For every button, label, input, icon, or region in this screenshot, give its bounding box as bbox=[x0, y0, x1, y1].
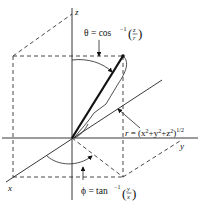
phi-close-paren: ) bbox=[132, 186, 136, 201]
theta-formula: θ = cos −1 ( z r ) bbox=[84, 26, 142, 41]
theta-open-paren: ( bbox=[128, 26, 132, 41]
phi-numerator: y bbox=[126, 185, 130, 192]
theta-formula-lhs: θ = cos bbox=[84, 28, 112, 38]
r-formula: r = (x2+y2+z2)1/2 bbox=[125, 127, 184, 138]
r-vector bbox=[72, 56, 123, 138]
y-axis-label: y bbox=[179, 141, 184, 151]
phi-arc bbox=[47, 156, 92, 164]
theta-formula-exponent: −1 bbox=[120, 26, 126, 32]
spherical-coordinates-diagram: z y x θ = cos −1 ( z r ) r = (x2+y2+z2)1… bbox=[0, 0, 205, 214]
dashed-projection-xy bbox=[72, 138, 123, 177]
phi-formula-exponent: −1 bbox=[114, 184, 120, 190]
x-axis-label: x bbox=[7, 183, 12, 193]
dashed-top-diagonal bbox=[13, 14, 72, 56]
dashed-projection-box bbox=[13, 14, 180, 177]
phi-formula-lhs: ϕ = tan bbox=[81, 186, 108, 196]
phi-denominator: x bbox=[126, 193, 130, 200]
theta-denominator: r bbox=[133, 34, 136, 41]
dashed-projection-y bbox=[123, 141, 180, 177]
z-axis-label: z bbox=[74, 7, 79, 17]
theta-close-paren: ) bbox=[138, 26, 142, 41]
phi-formula: ϕ = tan −1 ( y x ) bbox=[81, 184, 136, 201]
theta-numerator: z bbox=[132, 26, 136, 33]
phi-open-paren: ( bbox=[122, 186, 126, 201]
r-leader-arrow bbox=[118, 109, 140, 128]
r-bracket-outline bbox=[74, 56, 127, 138]
r-formula-text: r = (x2+y2+z2)1/2 bbox=[125, 127, 184, 138]
theta-arc bbox=[72, 60, 112, 72]
